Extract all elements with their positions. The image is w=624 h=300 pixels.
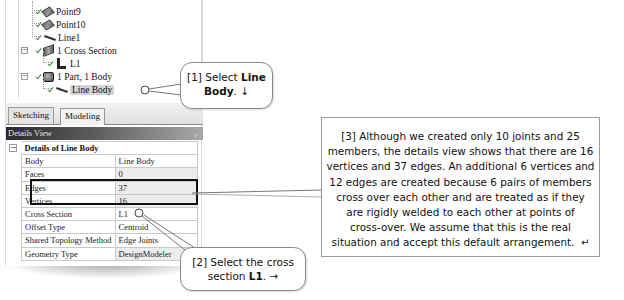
tree-item-label: 1 Cross Section xyxy=(57,46,117,56)
property-key: Body xyxy=(22,155,116,168)
callout-line: cross over each other and are treated as… xyxy=(326,190,595,205)
point-icon xyxy=(41,6,55,17)
check-icon xyxy=(35,47,42,54)
check-icon xyxy=(47,60,54,67)
callout-line: are rigidly welded to each other at poin… xyxy=(326,205,595,220)
tree-item-label: Line1 xyxy=(58,33,80,43)
check-icon xyxy=(35,34,42,41)
check-icon xyxy=(35,73,42,80)
collapse-icon[interactable]: − xyxy=(21,47,28,54)
callout-text: . ↓ xyxy=(234,85,249,97)
table-row[interactable]: Body Line Body xyxy=(22,155,198,168)
table-row[interactable]: Geometry Type DesignModeler xyxy=(22,247,198,260)
collapse-icon[interactable]: − xyxy=(9,144,17,152)
callout-line: situation and accept this default arrang… xyxy=(332,236,575,248)
tree-item-label: Point10 xyxy=(56,20,86,30)
property-value[interactable]: Centroid xyxy=(115,221,197,234)
details-view-header: Details View ᵩ xyxy=(6,127,203,140)
callout-select-line-body: [1] Select Line Body. ↓ xyxy=(180,62,273,109)
callout-explanation: [3] Although we created only 10 joints a… xyxy=(321,117,600,257)
tree-item-l1[interactable]: L1 xyxy=(47,57,81,70)
callout-line: 12 edges are created because 6 pairs of … xyxy=(326,175,595,190)
check-icon xyxy=(47,86,54,93)
property-key: Offset Type xyxy=(22,221,116,234)
point-icon xyxy=(41,19,55,30)
tree-item-line1[interactable]: Line1 xyxy=(35,31,80,44)
tab-sketching[interactable]: Sketching xyxy=(8,107,54,124)
tree-item-label: Line Body xyxy=(70,85,114,95)
property-key: Shared Topology Method xyxy=(22,234,116,247)
tab-modeling[interactable]: Modeling xyxy=(60,108,105,125)
tree-item-label: 1 Part, 1 Body xyxy=(57,72,112,82)
designmodeler-panel: Point9 Point10 Line1 − 1 Cross Section L… xyxy=(5,0,202,266)
property-value[interactable]: Edge Joints xyxy=(115,234,197,247)
callout-bold-text: Body xyxy=(204,85,234,97)
callout-bold-text: L1 xyxy=(249,270,263,282)
callout-text: [1] Select xyxy=(187,71,241,83)
callout-text: [2] Select the cross xyxy=(192,256,294,268)
tree-item-label: Point9 xyxy=(56,7,81,17)
callout-line: vertices and 37 edges. An additional 6 v… xyxy=(326,159,595,174)
callout-text: section xyxy=(208,270,249,282)
enter-icon: ↵ xyxy=(581,237,589,248)
tree-item-label: L1 xyxy=(70,59,81,69)
details-view-title: Details View xyxy=(8,128,52,138)
callout-bold-text: Line xyxy=(241,71,266,83)
tree-item-point9[interactable]: Point9 xyxy=(35,5,81,18)
callout-select-cross-section: [2] Select the cross section L1. → xyxy=(180,247,306,291)
table-row[interactable]: Cross Section L1 xyxy=(22,207,198,220)
callout-line: members, the details view shows that the… xyxy=(326,144,595,159)
tree-item-point10[interactable]: Point10 xyxy=(35,18,86,31)
tree-outline: Point9 Point10 Line1 − 1 Cross Section L… xyxy=(18,0,203,98)
group-title: Details of Line Body xyxy=(22,142,198,155)
l-section-icon xyxy=(55,58,67,69)
details-group-header: Details of Line Body xyxy=(22,142,198,155)
property-key: Geometry Type xyxy=(22,247,116,260)
callout-text: . → xyxy=(263,270,278,282)
line-body-icon xyxy=(55,84,67,95)
callout-line: [3] Although we created only 10 joints a… xyxy=(326,129,595,144)
edges-vertices-highlight xyxy=(30,179,198,205)
table-row[interactable]: Offset Type Centroid xyxy=(22,221,198,234)
property-value[interactable]: L1 xyxy=(115,207,197,220)
line-icon xyxy=(43,32,55,43)
table-row[interactable]: Shared Topology Method Edge Joints xyxy=(22,234,198,247)
tree-item-line-body[interactable]: Line Body xyxy=(47,83,114,96)
callout-line: cross-over. We assume that this is the r… xyxy=(326,220,595,235)
property-key: Cross Section xyxy=(22,207,116,220)
property-value[interactable]: Line Body xyxy=(115,155,197,168)
mode-tabs: Sketching Modeling xyxy=(6,103,203,125)
pin-icon[interactable]: ᵩ xyxy=(194,127,197,140)
collapse-icon[interactable]: − xyxy=(21,73,28,80)
